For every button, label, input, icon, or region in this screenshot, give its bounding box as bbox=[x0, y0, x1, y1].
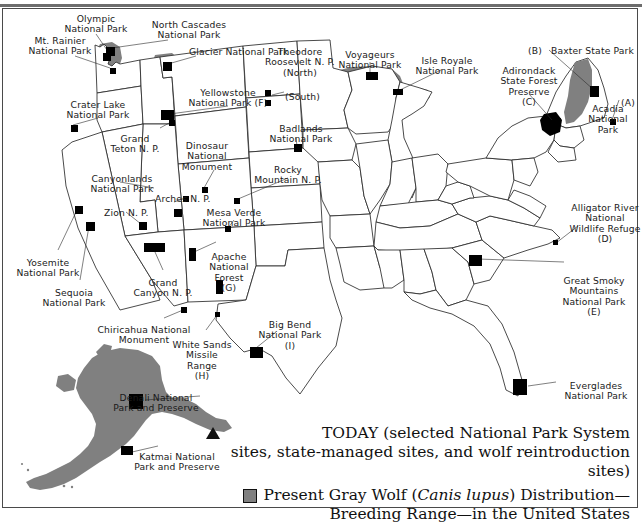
map-label-canyonlands: Canyonlands National Park bbox=[90, 174, 153, 195]
legend-today-line1: TODAY (selected National Park System bbox=[322, 424, 630, 442]
site-marker-yosemite bbox=[75, 206, 83, 214]
site-marker-white-sands bbox=[215, 312, 220, 317]
map-label-theodore-roosevelt: Theodore Roosevelt N. P. (North) bbox=[265, 47, 335, 78]
map-label-baxter-key: (B) bbox=[528, 46, 542, 56]
site-marker-isle-royale bbox=[393, 89, 403, 95]
triangle-up-icon bbox=[206, 427, 220, 439]
map-label-acadia-key: (A) bbox=[621, 98, 635, 108]
site-marker-badlands bbox=[294, 144, 302, 152]
map-label-yellowstone: Yellowstone National Park (F) bbox=[189, 88, 268, 109]
site-marker-zion bbox=[139, 222, 147, 230]
site-marker-crater-lake bbox=[71, 125, 78, 132]
map-label-white-sands: White Sands Missile Range (H) bbox=[172, 340, 231, 382]
map-label-adirondack: Adirondack State Forest Preserve (C) bbox=[500, 66, 557, 108]
map-label-badlands: Badlands National Park bbox=[269, 124, 332, 145]
legend-today-line2: sites, state-managed sites, and wolf rei… bbox=[231, 443, 630, 480]
map-legend: TODAY (selected National Park System sit… bbox=[206, 424, 630, 524]
site-marker-voyageurs bbox=[366, 72, 378, 80]
map-label-crater-lake: Crater Lake National Park bbox=[66, 100, 129, 121]
site-marker-rocky-mountain bbox=[234, 198, 240, 204]
site-marker-yellowstone bbox=[161, 110, 174, 120]
site-marker-baxter bbox=[590, 86, 599, 97]
map-label-voyageurs: Voyageurs National Park bbox=[338, 50, 401, 71]
map-label-sequoia: Sequoia National Park bbox=[42, 288, 105, 309]
map-label-big-bend: Big Bend National Park (I) bbox=[258, 320, 321, 351]
legend-range-post: ) Distribution— bbox=[509, 486, 630, 504]
map-label-arches: Arches N. P. bbox=[155, 194, 211, 204]
site-marker-sequoia bbox=[86, 222, 95, 231]
legend-row-range: Present Gray Wolf (Canis lupus) Distribu… bbox=[206, 486, 630, 524]
site-marker-mt-rainier bbox=[110, 68, 116, 74]
site-marker-everglades bbox=[513, 379, 527, 395]
map-label-mt-rainier: Mt. Rainier National Park bbox=[28, 36, 91, 57]
site-marker-canyonlands bbox=[174, 209, 182, 217]
map-label-grand-canyon: Grand Canyon N. P. bbox=[133, 278, 192, 299]
map-label-zion: Zion N. P. bbox=[104, 208, 148, 218]
site-marker-chiricahua bbox=[181, 307, 187, 313]
map-label-grand-teton: Grand Teton N. P. bbox=[110, 134, 159, 155]
map-label-great-smoky: Great Smoky Mountains National Park (E) bbox=[562, 276, 625, 318]
legend-row-today: TODAY (selected National Park System sit… bbox=[206, 424, 630, 481]
map-label-apache: Apache National Forest (G) bbox=[209, 252, 248, 294]
map-label-yosemite: Yosemite National Park bbox=[16, 258, 79, 279]
map-label-alligator-river: Alligator River National Wildlife Refuge… bbox=[569, 203, 640, 245]
site-marker-alligator-river bbox=[553, 240, 558, 245]
map-label-rocky-mountain: Rocky Mountain N. P. bbox=[254, 165, 322, 186]
legend-range-pre: Present Gray Wolf ( bbox=[264, 486, 418, 504]
site-marker-grand-teton bbox=[169, 120, 175, 126]
legend-range-line2: Breeding Range—in the United States bbox=[329, 505, 630, 523]
map-label-mesa-verde: Mesa Verde National Park bbox=[202, 208, 265, 229]
site-marker-great-smoky bbox=[469, 255, 482, 266]
site-marker-grand-canyon bbox=[144, 243, 165, 252]
map-label-isle-royale: Isle Royale National Park bbox=[415, 56, 478, 77]
map-label-north-cascades: North Cascades National Park bbox=[152, 20, 227, 41]
legend-range-text: Present Gray Wolf (Canis lupus) Distribu… bbox=[264, 486, 630, 524]
legend-range-italic: Canis lupus bbox=[417, 486, 509, 504]
map-label-theodore-south: (South) bbox=[285, 92, 320, 102]
map-label-denali: Denali National Park and Preserve bbox=[113, 393, 198, 414]
map-label-dinosaur: Dinosaur National Monument bbox=[182, 141, 232, 172]
site-marker-adirondack bbox=[553, 118, 561, 126]
map-label-everglades: Everglades National Park bbox=[564, 381, 627, 402]
map-label-baxter: Baxter State Park bbox=[551, 46, 634, 56]
map-label-acadia: Acadia National Park bbox=[588, 104, 627, 135]
gray-square-icon bbox=[243, 489, 257, 503]
legend-today-text: TODAY (selected National Park System sit… bbox=[227, 424, 630, 481]
site-marker-apache bbox=[189, 248, 196, 261]
site-marker-north-cascades bbox=[106, 47, 115, 56]
map-label-olympic: Olympic National Park bbox=[64, 14, 127, 35]
site-marker-katmai bbox=[121, 446, 133, 455]
site-marker-glacier bbox=[163, 62, 172, 71]
